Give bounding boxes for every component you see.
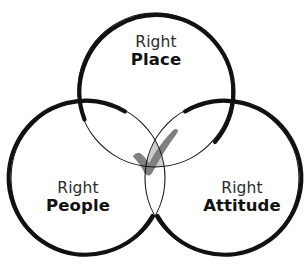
venn-label-attitude: Right Attitude	[180, 180, 304, 215]
venn-label-people-line2: People	[22, 197, 134, 215]
venn-diagram: Right Place Right People Right Attitude	[0, 0, 308, 280]
venn-label-people: Right People	[22, 180, 134, 215]
venn-label-attitude-line1: Right	[180, 180, 304, 197]
venn-label-place-line1: Right	[104, 34, 208, 51]
circle-outline-people-thick	[9, 101, 153, 255]
venn-label-place: Right Place	[104, 34, 208, 69]
venn-label-people-line1: Right	[22, 180, 134, 197]
check-icon	[133, 129, 178, 176]
venn-label-place-line2: Place	[104, 51, 208, 69]
circle-outline-attitude-thick	[158, 101, 302, 255]
venn-label-attitude-line2: Attitude	[180, 197, 304, 215]
